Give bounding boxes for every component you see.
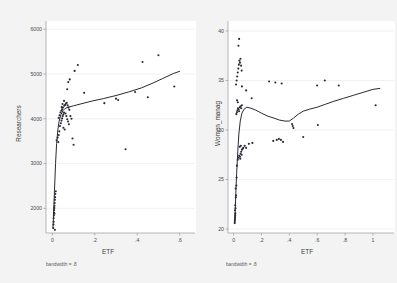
scatter-point bbox=[236, 75, 238, 77]
scatter-point bbox=[239, 58, 241, 60]
scatter-point bbox=[235, 184, 237, 186]
scatter-point bbox=[56, 139, 58, 141]
scatter-point bbox=[282, 141, 284, 143]
scatter-point bbox=[66, 88, 68, 90]
scatter-point bbox=[55, 190, 57, 192]
scatter-point bbox=[57, 137, 59, 139]
scatter-point bbox=[53, 217, 55, 219]
scatter-point bbox=[291, 123, 293, 125]
scatter-point bbox=[234, 209, 236, 211]
scatter-point bbox=[147, 96, 149, 98]
scatter-point bbox=[53, 205, 55, 207]
scatter-point bbox=[103, 102, 105, 104]
scatter-point bbox=[61, 117, 63, 119]
x-tick-label: 0 bbox=[232, 237, 235, 243]
scatter-point bbox=[60, 122, 62, 124]
scatter-point bbox=[239, 62, 241, 64]
scatter-point bbox=[239, 156, 241, 158]
scatter-point bbox=[83, 92, 85, 94]
scatter-point bbox=[236, 176, 238, 178]
scatter-point bbox=[67, 120, 69, 122]
scatter-point bbox=[68, 109, 70, 111]
scatter-point bbox=[241, 85, 243, 87]
scatter-point bbox=[66, 118, 68, 120]
scatter-point bbox=[272, 140, 274, 142]
scatter-point bbox=[62, 103, 64, 105]
scatter-point bbox=[77, 64, 79, 66]
scatter-point bbox=[59, 111, 61, 113]
scatter-point bbox=[64, 112, 66, 114]
scatter-point bbox=[66, 102, 68, 104]
plot-area-background bbox=[46, 21, 196, 233]
scatter-point bbox=[238, 64, 240, 66]
x-tick-label: 0 bbox=[51, 237, 54, 243]
scatter-point bbox=[281, 82, 283, 84]
scatter-point bbox=[235, 196, 237, 198]
y-tick-label: 35 bbox=[218, 77, 224, 83]
y-tick-label: 3000 bbox=[30, 160, 42, 166]
scatter-point bbox=[53, 214, 55, 216]
scatter-point bbox=[237, 72, 239, 74]
scatter-point bbox=[239, 158, 241, 160]
scatter-point bbox=[248, 143, 250, 145]
scatter-point bbox=[65, 115, 67, 117]
scatter-point bbox=[251, 97, 253, 99]
scatter-point bbox=[236, 79, 238, 81]
scatter-point bbox=[274, 81, 276, 83]
scatter-point bbox=[245, 147, 247, 149]
scatter-point bbox=[276, 139, 278, 141]
x-tick-label: .2 bbox=[259, 237, 263, 243]
scatter-point bbox=[62, 115, 64, 117]
scatter-point bbox=[234, 218, 236, 220]
scatter-point bbox=[71, 137, 73, 139]
scatter-point bbox=[73, 144, 75, 146]
researchers-scatter-plot: 200030004000500060000.2.4.6 bbox=[0, 0, 198, 283]
scatter-point bbox=[70, 118, 72, 120]
scatter-point bbox=[375, 104, 377, 106]
scatter-point bbox=[237, 45, 239, 47]
scatter-point bbox=[59, 114, 61, 116]
y-tick-label: 20 bbox=[218, 226, 224, 232]
scatter-point bbox=[241, 154, 243, 156]
scatter-point bbox=[278, 138, 280, 140]
scatter-point bbox=[69, 115, 71, 117]
scatter-point bbox=[240, 151, 242, 153]
scatter-point bbox=[173, 86, 175, 88]
scatter-point bbox=[238, 38, 240, 40]
y-tick-label: 5000 bbox=[30, 71, 42, 77]
figure-root: 200030004000500060000.2.4.6 Researchers … bbox=[0, 0, 397, 283]
x-tick-label: .2 bbox=[93, 237, 97, 243]
scatter-point bbox=[324, 79, 326, 81]
scatter-point bbox=[63, 100, 65, 102]
scatter-point bbox=[53, 213, 55, 215]
x-tick-label: 1 bbox=[371, 237, 374, 243]
x-tick-label: .4 bbox=[135, 237, 139, 243]
women-manag-scatter-plot: 20253035400.2.4.6.81 bbox=[198, 0, 397, 283]
scatter-point bbox=[316, 84, 318, 86]
scatter-point bbox=[58, 117, 60, 119]
scatter-point bbox=[245, 89, 247, 91]
scatter-point bbox=[54, 193, 56, 195]
scatter-point bbox=[240, 65, 242, 67]
scatter-point bbox=[53, 209, 55, 211]
scatter-point bbox=[53, 207, 55, 209]
scatter-point bbox=[280, 139, 282, 141]
scatter-point bbox=[236, 165, 238, 167]
scatter-point bbox=[251, 142, 253, 144]
scatter-point bbox=[235, 113, 237, 115]
scatter-point bbox=[237, 159, 239, 161]
scatter-point bbox=[234, 222, 236, 224]
scatter-point bbox=[242, 147, 244, 149]
x-tick-label: .8 bbox=[343, 237, 347, 243]
scatter-point bbox=[64, 129, 66, 131]
scatter-point bbox=[234, 212, 236, 214]
scatter-point bbox=[338, 84, 340, 86]
scatter-point bbox=[69, 78, 71, 80]
scatter-point bbox=[117, 99, 119, 101]
plot-area-background bbox=[228, 21, 395, 233]
scatter-point bbox=[236, 111, 238, 113]
scatter-point bbox=[237, 68, 239, 70]
scatter-point bbox=[52, 223, 54, 225]
scatter-point bbox=[240, 145, 242, 147]
scatter-point bbox=[234, 220, 236, 222]
